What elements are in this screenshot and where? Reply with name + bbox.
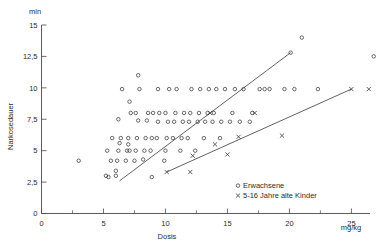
data-point-erwachsene bbox=[219, 120, 223, 124]
data-point-erwachsene bbox=[128, 100, 132, 104]
y-axis-unit-label: min bbox=[29, 7, 41, 16]
data-point-erwachsene bbox=[150, 136, 154, 140]
data-point-erwachsene bbox=[149, 149, 153, 153]
legend-marker-circle bbox=[236, 184, 240, 188]
data-point-erwachsene bbox=[143, 149, 147, 153]
data-point-erwachsene bbox=[164, 149, 168, 153]
y-tick-label: 7,5 bbox=[27, 115, 37, 124]
data-point-erwachsene bbox=[258, 87, 262, 91]
legend-label: 5-16 Jahre alte Kinder bbox=[243, 191, 317, 200]
data-point-erwachsene bbox=[114, 169, 118, 173]
data-point-erwachsene bbox=[124, 159, 128, 163]
y-axis-ticks: 02,557,51012,515 bbox=[23, 21, 47, 219]
y-tick-label: 10 bbox=[29, 84, 37, 93]
data-point-erwachsene bbox=[203, 120, 207, 124]
x-tick-label: 20 bbox=[285, 219, 293, 228]
data-point-erwachsene bbox=[134, 149, 138, 153]
data-point-erwachsene bbox=[316, 87, 320, 91]
data-point-erwachsene bbox=[197, 111, 201, 115]
data-point-erwachsene bbox=[141, 158, 145, 162]
data-point-erwachsene bbox=[198, 87, 202, 91]
x-tick-label: 0 bbox=[39, 219, 43, 228]
data-point-erwachsene bbox=[293, 87, 297, 91]
data-point-erwachsene bbox=[181, 120, 185, 124]
data-point-erwachsene bbox=[233, 87, 237, 91]
data-point-erwachsene bbox=[150, 175, 154, 179]
x-tick-label: 5 bbox=[101, 219, 105, 228]
data-point-erwachsene bbox=[218, 136, 222, 140]
data-point-erwachsene bbox=[165, 136, 169, 140]
data-point-erwachsene bbox=[207, 87, 211, 91]
data-point-erwachsene bbox=[180, 136, 184, 140]
data-point-erwachsene bbox=[263, 87, 267, 91]
data-point-erwachsene bbox=[215, 87, 219, 91]
x-tick-label: 25 bbox=[347, 219, 355, 228]
data-point-erwachsene bbox=[115, 159, 119, 163]
data-point-erwachsene bbox=[146, 111, 150, 115]
data-point-erwachsene bbox=[151, 111, 155, 115]
data-point-erwachsene bbox=[117, 149, 121, 153]
data-point-erwachsene bbox=[156, 120, 160, 124]
data-point-erwachsene bbox=[110, 136, 114, 140]
data-point-erwachsene bbox=[128, 149, 132, 153]
data-point-erwachsene bbox=[164, 111, 168, 115]
data-point-kinder bbox=[165, 170, 169, 174]
adults-regression bbox=[120, 53, 291, 181]
data-point-erwachsene bbox=[117, 118, 121, 122]
legend-label: Erwachsene bbox=[243, 181, 284, 190]
data-point-erwachsene bbox=[129, 111, 133, 115]
data-point-erwachsene bbox=[172, 120, 176, 124]
data-point-erwachsene bbox=[77, 159, 81, 163]
data-point-erwachsene bbox=[133, 159, 137, 163]
data-point-erwachsene bbox=[187, 120, 191, 124]
data-point-erwachsene bbox=[156, 87, 160, 91]
data-point-erwachsene bbox=[136, 119, 140, 123]
data-point-kinder bbox=[191, 154, 195, 158]
data-point-erwachsene bbox=[228, 120, 232, 124]
data-point-erwachsene bbox=[136, 74, 140, 78]
data-point-erwachsene bbox=[144, 136, 148, 140]
data-point-kinder bbox=[367, 87, 371, 91]
data-point-erwachsene bbox=[175, 87, 179, 91]
data-point-kinder bbox=[349, 87, 353, 91]
data-point-kinder bbox=[225, 152, 229, 156]
data-point-erwachsene bbox=[186, 136, 190, 140]
data-point-erwachsene bbox=[300, 36, 304, 40]
regression-lines bbox=[120, 53, 352, 181]
data-point-erwachsene bbox=[127, 143, 131, 147]
series-kinder-points bbox=[165, 87, 371, 174]
data-point-erwachsene bbox=[202, 136, 206, 140]
data-point-erwachsene bbox=[189, 111, 193, 115]
data-point-erwachsene bbox=[138, 87, 142, 91]
data-point-erwachsene bbox=[193, 149, 197, 153]
children-regression bbox=[167, 89, 352, 172]
plot-canvas: min Narkosedauer Dosis mg/kg 02,557,5101… bbox=[0, 0, 390, 250]
data-point-erwachsene bbox=[171, 136, 175, 140]
y-tick-label: 5 bbox=[33, 146, 37, 155]
x-tick-label: 15 bbox=[223, 219, 231, 228]
data-point-erwachsene bbox=[114, 174, 118, 178]
data-point-erwachsene bbox=[109, 159, 113, 163]
data-point-erwachsene bbox=[119, 136, 123, 140]
data-point-erwachsene bbox=[211, 120, 215, 124]
data-point-erwachsene bbox=[135, 136, 139, 140]
data-point-erwachsene bbox=[372, 55, 376, 59]
data-point-kinder bbox=[213, 142, 217, 146]
legend: Erwachsene5-16 Jahre alte Kinder bbox=[236, 181, 317, 200]
data-point-erwachsene bbox=[120, 87, 124, 91]
data-point-erwachsene bbox=[179, 149, 183, 153]
data-point-erwachsene bbox=[158, 111, 162, 115]
x-axis-ticks: 0510152025 bbox=[39, 209, 355, 228]
data-point-erwachsene bbox=[162, 159, 166, 163]
data-point-kinder bbox=[188, 170, 192, 174]
data-point-erwachsene bbox=[182, 111, 186, 115]
data-point-erwachsene bbox=[174, 111, 178, 115]
x-axis-title: Dosis bbox=[158, 232, 177, 241]
data-point-erwachsene bbox=[166, 120, 170, 124]
data-point-erwachsene bbox=[134, 111, 138, 115]
data-point-erwachsene bbox=[212, 111, 216, 115]
data-point-kinder bbox=[253, 111, 257, 115]
data-point-erwachsene bbox=[231, 111, 235, 115]
data-point-erwachsene bbox=[238, 120, 242, 124]
data-point-kinder bbox=[237, 135, 241, 139]
